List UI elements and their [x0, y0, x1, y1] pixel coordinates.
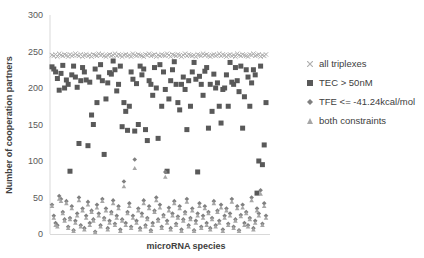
data-point [75, 85, 80, 90]
diamond-marker-icon [305, 99, 315, 105]
data-point [211, 72, 216, 77]
data-point [53, 69, 58, 74]
data-point [60, 63, 65, 68]
data-point [264, 52, 268, 56]
data-point [184, 127, 189, 132]
data-point [253, 72, 258, 77]
square-marker-icon [305, 80, 315, 86]
data-point [82, 69, 87, 74]
data-point [154, 86, 159, 91]
data-point [247, 104, 252, 109]
data-point [201, 93, 206, 98]
data-point [175, 100, 180, 105]
data-point [258, 64, 263, 69]
data-point [102, 152, 107, 157]
data-point [121, 100, 126, 105]
data-point [260, 162, 265, 167]
data-point [237, 89, 242, 94]
data-point [127, 104, 132, 109]
data-point [120, 124, 125, 129]
data-point [168, 78, 173, 83]
data-point [188, 104, 193, 109]
data-point [251, 67, 256, 72]
data-point [122, 184, 127, 188]
data-point [183, 87, 188, 92]
data-point [94, 100, 99, 105]
data-point [213, 86, 218, 91]
legend-item-both: both constraints [305, 111, 415, 130]
data-point [172, 59, 177, 64]
y-tick-label: 150 [28, 120, 43, 130]
data-point [139, 72, 144, 77]
data-point [217, 104, 222, 109]
data-point [93, 67, 98, 72]
data-point [67, 169, 72, 174]
data-point [123, 109, 128, 114]
data-point [80, 65, 85, 70]
data-point [222, 86, 227, 91]
data-point [152, 65, 157, 70]
data-point [132, 157, 137, 162]
data-point [122, 179, 127, 184]
data-point [76, 141, 81, 146]
data-point [246, 75, 251, 80]
data-point [219, 205, 224, 209]
data-point [71, 64, 76, 69]
data-point [190, 69, 195, 74]
y-tick-label: 0 [38, 229, 43, 239]
data-point [233, 65, 238, 70]
data-point [224, 72, 229, 77]
data-point [181, 75, 186, 80]
data-point [98, 62, 103, 67]
y-tick-label: 300 [28, 10, 43, 20]
data-point [199, 82, 204, 87]
data-point [58, 71, 63, 76]
data-point [230, 200, 235, 204]
data-point [132, 166, 137, 170]
legend-item-tec: TEC > 50nM [305, 73, 415, 92]
data-point [89, 113, 94, 118]
data-point [185, 200, 190, 204]
data-point [174, 82, 179, 87]
data-point [262, 204, 267, 208]
data-point [112, 67, 117, 72]
data-point [240, 126, 245, 131]
data-point [109, 72, 114, 77]
data-point [91, 122, 96, 127]
data-point [228, 60, 233, 65]
data-point [249, 80, 254, 85]
data-point [204, 65, 209, 70]
data-point [157, 62, 162, 67]
data-point [78, 78, 83, 83]
data-point [208, 82, 213, 87]
data-point [179, 82, 184, 87]
data-point [105, 80, 110, 85]
data-point [186, 78, 191, 83]
legend-label: both constraints [319, 115, 386, 126]
data-point [86, 203, 91, 207]
data-point [156, 136, 161, 141]
legend-item-tfe: TFE <= -41.24kcal/mol [305, 92, 415, 111]
data-point [163, 175, 168, 179]
data-point [235, 78, 240, 83]
data-point [141, 67, 146, 72]
data-point [219, 121, 224, 126]
data-point [158, 205, 163, 209]
data-point [159, 104, 164, 109]
data-point [118, 64, 123, 69]
legend: all triplexes TEC > 50nM TFE <= -41.24kc… [305, 54, 415, 130]
x-marker-icon [305, 61, 315, 67]
data-point [77, 198, 82, 202]
legend-label: TFE <= -41.24kcal/mol [319, 96, 415, 107]
data-point [114, 88, 119, 93]
data-point [161, 69, 166, 74]
y-tick-label: 50 [33, 193, 43, 203]
data-point [197, 204, 202, 208]
data-point [73, 75, 78, 80]
y-tick-label: 100 [28, 156, 43, 166]
data-point [154, 198, 159, 202]
data-point [167, 208, 172, 212]
data-point [132, 129, 137, 134]
data-point [125, 128, 130, 133]
data-point [244, 67, 249, 72]
